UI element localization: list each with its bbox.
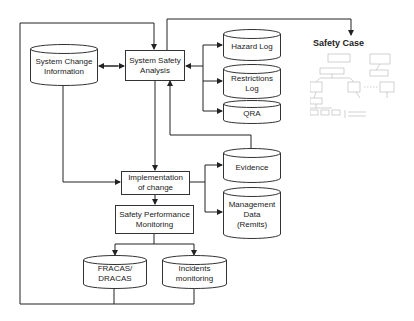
node-label: Management Data (Remits) [229,196,276,230]
node-label: Evidence [236,159,269,173]
implementation-of-change-box: Implementation of change [121,171,190,195]
node-label: System Change Information [36,53,93,77]
management-data-cylinder: Management Data (Remits) [223,187,281,239]
node-label: FRACAS/ DRACAS [98,260,133,284]
node-label: System Safety Analysis [129,56,181,76]
hazard-log-cylinder: Hazard Log [223,29,281,61]
safety-case-title: Safety Case [313,38,364,48]
node-label: QRA [243,105,260,119]
node-label: Restrictions Log [231,70,273,94]
safety-case-thumbnail [310,50,405,125]
fracas-dracas-cylinder: FRACAS/ DRACAS [83,255,147,289]
restrictions-log-cylinder: Restrictions Log [223,64,281,99]
node-label: Incidents monitoring [176,260,213,284]
system-change-information-cylinder: System Change Information [30,44,98,86]
system-safety-analysis-box: System Safety Analysis [125,50,185,81]
incidents-monitoring-cylinder: Incidents monitoring [162,255,227,289]
qra-cylinder: QRA [223,100,281,124]
safety-performance-monitoring-box: Safety Performance Monitoring [115,205,194,234]
node-label: Safety Performance Monitoring [119,210,190,230]
node-label: Implementation of change [128,173,183,193]
evidence-cylinder: Evidence [223,148,281,183]
node-label: Hazard Log [231,38,272,52]
